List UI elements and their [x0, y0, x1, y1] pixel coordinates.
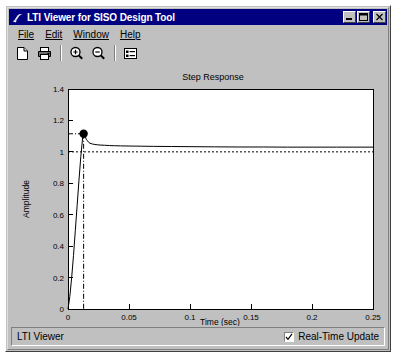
toolbar	[9, 42, 387, 64]
menu-item-file[interactable]: File	[13, 28, 40, 41]
matlab-figure-icon	[11, 11, 24, 24]
y-tick-label: 0.8	[53, 179, 65, 188]
window-title: LTI Viewer for SISO Design Tool	[27, 12, 342, 23]
print-button[interactable]	[34, 43, 55, 63]
x-tick-label: 0.2	[306, 313, 318, 322]
toolbar-separator-1	[60, 45, 62, 61]
x-tick-label: 0.1	[184, 313, 196, 322]
real-time-update-checkbox[interactable]	[284, 332, 294, 342]
toolbar-separator-2	[114, 45, 116, 61]
x-tick-label: 0.05	[121, 313, 137, 322]
maximize-button[interactable]	[357, 11, 370, 23]
status-bar: LTI Viewer Real-Time Update	[11, 327, 385, 346]
zoom-in-icon	[68, 45, 85, 62]
minimize-button[interactable]	[343, 11, 356, 23]
y-axis-label: Amplitude	[21, 180, 31, 218]
title-bar[interactable]: LTI Viewer for SISO Design Tool	[9, 9, 387, 25]
zoom-out-icon	[90, 45, 107, 62]
real-time-update-label: Real-Time Update	[298, 331, 379, 342]
y-tick-label: 0.4	[53, 242, 65, 251]
menu-bar: File Edit Window Help	[9, 27, 387, 42]
step-response-plot[interactable]: Step Response 00.20.40.60.811.21.4 00.05…	[9, 64, 387, 326]
status-text: LTI Viewer	[17, 331, 284, 342]
y-tick-label: 0.6	[53, 211, 65, 220]
y-tick-label: 1.4	[53, 85, 65, 94]
y-tick-label: 0	[60, 305, 65, 314]
zoom-in-button[interactable]	[66, 43, 87, 63]
menu-item-edit-label: Edit	[45, 29, 62, 40]
close-button[interactable]	[373, 11, 386, 23]
menu-item-file-label: File	[18, 29, 34, 40]
x-tick-label: 0.15	[243, 313, 259, 322]
x-tick-label: 0	[66, 313, 71, 322]
lti-viewer-window: LTI Viewer for SISO Design Tool File Edi…	[5, 5, 391, 352]
y-tick-label: 0.2	[53, 274, 65, 283]
new-document-icon	[14, 45, 31, 62]
menu-item-window[interactable]: Window	[68, 28, 115, 41]
zoom-out-button[interactable]	[88, 43, 109, 63]
printer-icon	[36, 45, 53, 62]
x-tick-label: 0.25	[365, 313, 381, 322]
y-tick-label: 1.2	[53, 116, 65, 125]
menu-item-help[interactable]: Help	[115, 28, 147, 41]
peak-response-marker[interactable]	[79, 130, 87, 138]
menu-item-window-label: Window	[73, 29, 109, 40]
plot-title: Step Response	[182, 72, 244, 82]
y-tick-label: 1	[60, 148, 65, 157]
plot-axes-area	[68, 89, 373, 309]
new-document-button[interactable]	[12, 43, 33, 63]
menu-item-help-label: Help	[120, 29, 141, 40]
checkmark-icon	[285, 333, 293, 341]
properties-button[interactable]	[120, 43, 141, 63]
list-properties-icon	[122, 45, 139, 62]
figure-panel: Step Response 00.20.40.60.811.21.4 00.05…	[9, 64, 387, 326]
x-axis-label: Time (sec)	[200, 317, 240, 326]
real-time-update-control[interactable]: Real-Time Update	[284, 331, 379, 342]
menu-item-edit[interactable]: Edit	[40, 28, 68, 41]
